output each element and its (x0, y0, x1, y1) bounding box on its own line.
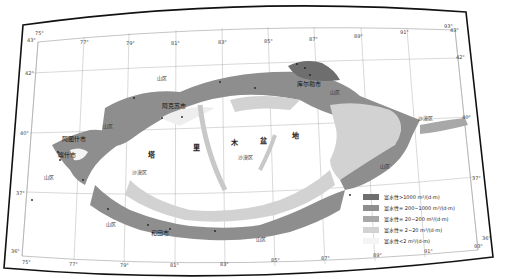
region-mountain-south-west: 山区 (106, 222, 116, 227)
legend-item-1: 富水性>1000 m³/(d·m) (363, 191, 473, 202)
region-desert-center: 沙漠区 (238, 155, 253, 160)
city-aksu: 阿克苏市 (162, 103, 186, 109)
legend-label-2: 富水性= 200~1000 m³/(d·m) (384, 204, 455, 211)
legend-swatch-5 (363, 238, 379, 244)
region-mountain-south: 山区 (256, 237, 266, 242)
legend-item-2: 富水性= 200~1000 m³/(d·m) (363, 202, 473, 213)
legend-item-3: 富水性= 20~200 m³/(d·m) (363, 213, 473, 224)
region-mountain-south-east: 山区 (380, 164, 390, 169)
basin-label-char-4: 盆 (260, 138, 267, 145)
region-desert-west: 沙漠区 (132, 170, 147, 175)
city-hotan: 和田市 (151, 230, 169, 236)
tick-left-42: 42° (25, 71, 34, 76)
tick-left-43: 43° (27, 38, 36, 43)
tick-top-75: 75° (35, 31, 44, 36)
region-mountain-north: 山区 (157, 76, 167, 81)
tick-top-79: 79° (126, 41, 135, 46)
tick-bottom-79: 79° (120, 263, 129, 268)
tick-bottom-85: 85° (271, 258, 280, 263)
region-mountain-north-east: 山区 (330, 90, 340, 95)
tick-right-37: 37° (472, 176, 481, 181)
tick-top-91: 91° (400, 30, 409, 35)
legend-swatch-1 (363, 194, 379, 200)
basin-label-char-2: 里 (193, 145, 200, 152)
tick-bottom-87: 87° (321, 256, 330, 261)
tick-left-36: 36° (11, 249, 20, 254)
legend-label-5: 富水性<2 m³/(d·m) (384, 237, 430, 244)
tick-bottom-91: 91° (424, 249, 433, 254)
tick-top-85: 85° (264, 39, 273, 44)
tick-top-89: 89° (354, 34, 363, 39)
region-desert-east: 沙漠区 (418, 116, 433, 121)
legend-item-5: 富水性<2 m³/(d·m) (363, 235, 473, 246)
tick-right-36: 36° (482, 236, 491, 241)
legend-label-1: 富水性>1000 m³/(d·m) (384, 193, 440, 200)
tick-bottom-75: 75° (22, 260, 31, 265)
basin-label-char-3: 木 (231, 140, 238, 147)
legend-swatch-4 (363, 227, 379, 233)
city-artux: 阿图什市 (62, 136, 86, 142)
region-mountain-west-north: 山区 (103, 124, 113, 129)
city-korla: 库尔勒市 (297, 81, 321, 87)
tick-bottom-77: 77° (69, 262, 78, 267)
tick-bottom-89: 89° (373, 253, 382, 258)
legend-item-4: 富水性= 2~20 m³/(d·m) (363, 224, 473, 235)
tick-top-77: 77° (80, 40, 89, 45)
tick-right-40: 40° (462, 115, 471, 120)
tick-right-42: 42° (456, 55, 465, 60)
region-mountain-west: 山区 (44, 175, 54, 180)
legend: 富水性>1000 m³/(d·m) 富水性= 200~1000 m³/(d·m)… (363, 191, 473, 246)
basin-label-char-5: 地 (292, 133, 299, 140)
tick-top-83: 83° (218, 40, 227, 45)
legend-swatch-3 (363, 216, 379, 222)
tick-top-87: 87° (309, 37, 318, 42)
tick-right-43: 43° (450, 28, 459, 33)
tick-bottom-93: 93° (474, 244, 483, 249)
tick-bottom-81: 81° (170, 263, 179, 268)
city-kashgar: 喀什市 (58, 152, 76, 158)
legend-label-3: 富水性= 20~200 m³/(d·m) (384, 215, 449, 222)
tick-left-37: 37° (16, 191, 25, 196)
tick-bottom-83: 83° (220, 262, 229, 267)
tick-left-40: 40° (20, 131, 29, 136)
legend-swatch-2 (363, 205, 379, 211)
legend-label-4: 富水性= 2~20 m³/(d·m) (384, 226, 442, 233)
tick-top-81: 81° (171, 41, 180, 46)
basin-label-char-1: 塔 (148, 152, 155, 159)
